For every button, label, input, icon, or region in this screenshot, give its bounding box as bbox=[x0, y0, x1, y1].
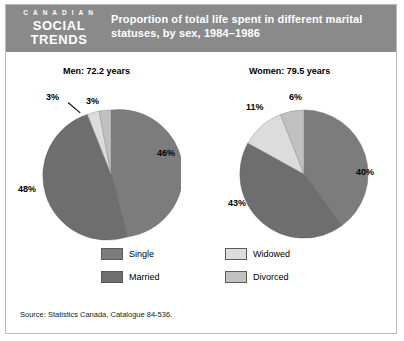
legend-swatch-widowed-icon bbox=[225, 248, 247, 260]
pie-women-label-widowed: 11% bbox=[246, 102, 264, 112]
logo-line-trends: TRENDS bbox=[18, 33, 100, 46]
legend-swatch-divorced-icon bbox=[225, 271, 247, 283]
pie-men-slices bbox=[43, 110, 181, 241]
legend-item-divorced: Divorced bbox=[225, 271, 289, 283]
logo-line-social: SOCIAL bbox=[18, 19, 100, 32]
pie-men-label-divorced: 3% bbox=[86, 96, 99, 106]
legend-label-widowed: Widowed bbox=[253, 249, 290, 259]
pie-men-label-married: 48% bbox=[18, 184, 36, 194]
chart-figure: C A N A D I A N SOCIAL TRENDS Proportion… bbox=[5, 4, 397, 334]
panel-title-women: Women: 79.5 years bbox=[249, 66, 330, 76]
pie-women-label-married: 43% bbox=[228, 198, 246, 208]
pie-women-svg bbox=[234, 104, 374, 244]
canadian-social-trends-logo: C A N A D I A N SOCIAL TRENDS bbox=[18, 10, 100, 46]
pie-men-svg bbox=[41, 104, 181, 244]
legend-label-married: Married bbox=[129, 272, 160, 282]
figure-header: C A N A D I A N SOCIAL TRENDS Proportion… bbox=[6, 5, 396, 52]
legend-item-married: Married bbox=[101, 271, 160, 283]
panel-title-men: Men: 72.2 years bbox=[63, 66, 130, 76]
legend-swatch-married-icon bbox=[101, 271, 123, 283]
pie-men-label-widowed: 3% bbox=[46, 92, 59, 102]
legend-swatch-single-icon bbox=[101, 248, 123, 260]
pie-women-label-single: 40% bbox=[356, 167, 374, 177]
pie-men-label-single: 46% bbox=[157, 148, 175, 158]
chart-legend: Single Married Widowed Divorced bbox=[101, 248, 331, 292]
pie-women-slices bbox=[240, 110, 368, 238]
legend-item-single: Single bbox=[101, 248, 154, 260]
chart-body: Men: 72.2 years Women: 79.5 years bbox=[6, 52, 396, 333]
legend-label-divorced: Divorced bbox=[253, 272, 289, 282]
pie-women-label-divorced: 6% bbox=[289, 92, 302, 102]
pie-chart-women bbox=[234, 104, 374, 248]
pie-chart-men bbox=[41, 104, 181, 248]
legend-label-single: Single bbox=[129, 249, 154, 259]
source-note: Source: Statistics Canada, Catalogue 84-… bbox=[20, 310, 172, 319]
legend-item-widowed: Widowed bbox=[225, 248, 290, 260]
chart-title: Proportion of total life spent in differ… bbox=[111, 12, 386, 40]
logo-line-canadian: C A N A D I A N bbox=[18, 10, 100, 17]
